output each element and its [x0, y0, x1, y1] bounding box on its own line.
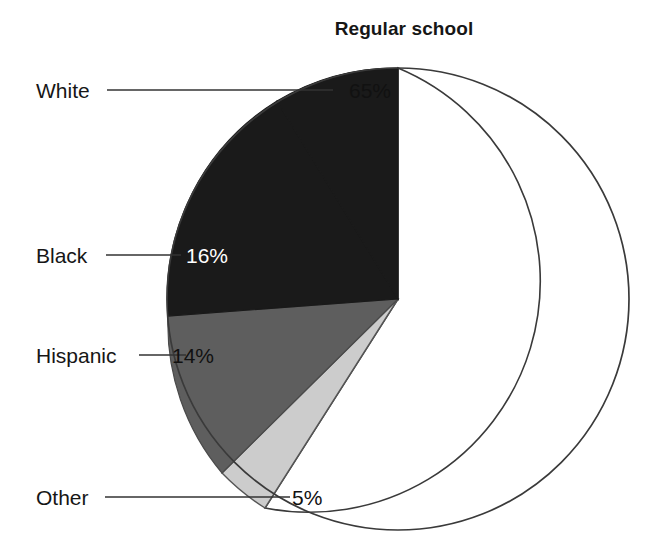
- slice-value-other: 5%: [292, 487, 322, 508]
- slice-label-black: Black: [36, 245, 87, 266]
- slice-label-white: White: [36, 80, 90, 101]
- slice-value-hispanic: 14%: [172, 345, 214, 366]
- pie-graphic: [0, 0, 654, 557]
- slice-label-other: Other: [36, 487, 89, 508]
- slice-label-hispanic: Hispanic: [36, 345, 117, 366]
- slice-value-black: 16%: [186, 245, 228, 266]
- pie-chart-figure: Regular school White Black Hispanic Othe…: [0, 0, 654, 557]
- slice-value-white: 65%: [349, 80, 391, 101]
